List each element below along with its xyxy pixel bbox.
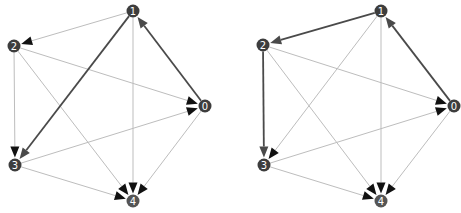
arrowhead-icon	[129, 183, 138, 194]
arrowhead-icon	[377, 183, 386, 194]
arrowhead-icon	[186, 96, 198, 105]
edge-2-to-4	[18, 51, 122, 186]
node-3: 3	[258, 159, 271, 172]
node-1: 1	[375, 5, 388, 18]
node-2: 2	[257, 39, 270, 52]
arrowhead-icon	[20, 148, 30, 159]
edge-2-to-0	[20, 48, 187, 101]
arrowhead-icon	[366, 184, 376, 195]
node-0: 0	[448, 100, 461, 113]
edge-2-to-4	[267, 50, 370, 186]
edge-1-to-3	[26, 16, 129, 150]
arrowhead-icon	[435, 96, 447, 105]
node-1: 1	[127, 5, 140, 18]
arrowhead-icon	[435, 107, 447, 116]
arrowhead-icon	[269, 148, 279, 159]
arrowhead-icon	[186, 107, 198, 116]
edge-3-to-0	[270, 111, 436, 163]
edge-2-to-0	[269, 47, 436, 100]
arrowhead-icon	[386, 184, 396, 195]
edge-2-to-3	[14, 52, 15, 146]
arrowhead-icon	[362, 191, 374, 200]
arrowhead-icon	[259, 146, 268, 157]
node-label: 4	[130, 196, 136, 207]
node-label: 2	[260, 40, 266, 51]
graph-right: 01234	[257, 5, 461, 208]
edge-3-to-0	[21, 111, 187, 163]
node-2: 2	[8, 40, 21, 53]
node-4: 4	[375, 195, 388, 208]
node-label: 3	[12, 160, 18, 171]
node-4: 4	[127, 195, 140, 208]
arrowhead-icon	[386, 17, 396, 28]
node-label: 1	[378, 6, 384, 17]
arrowhead-icon	[270, 36, 282, 45]
node-label: 1	[130, 6, 136, 17]
node-3: 3	[9, 159, 22, 172]
arrowhead-icon	[118, 184, 128, 195]
edge-3-to-4	[270, 167, 363, 196]
graph-left: 01234	[8, 5, 212, 208]
node-label: 4	[378, 196, 384, 207]
node-label: 0	[202, 101, 208, 112]
arrowhead-icon	[10, 146, 19, 157]
graph-diagram: 01234 01234	[0, 0, 461, 213]
edge-1-to-2	[281, 13, 375, 40]
edge-2-to-3	[263, 51, 264, 146]
node-label: 0	[451, 101, 457, 112]
node-0: 0	[199, 100, 212, 113]
node-label: 2	[11, 41, 17, 52]
edge-3-to-4	[21, 167, 115, 196]
node-label: 3	[261, 160, 267, 171]
arrowhead-icon	[21, 36, 33, 45]
arrowhead-icon	[138, 17, 148, 28]
arrowhead-icon	[114, 191, 126, 200]
arrowhead-icon	[138, 184, 148, 195]
